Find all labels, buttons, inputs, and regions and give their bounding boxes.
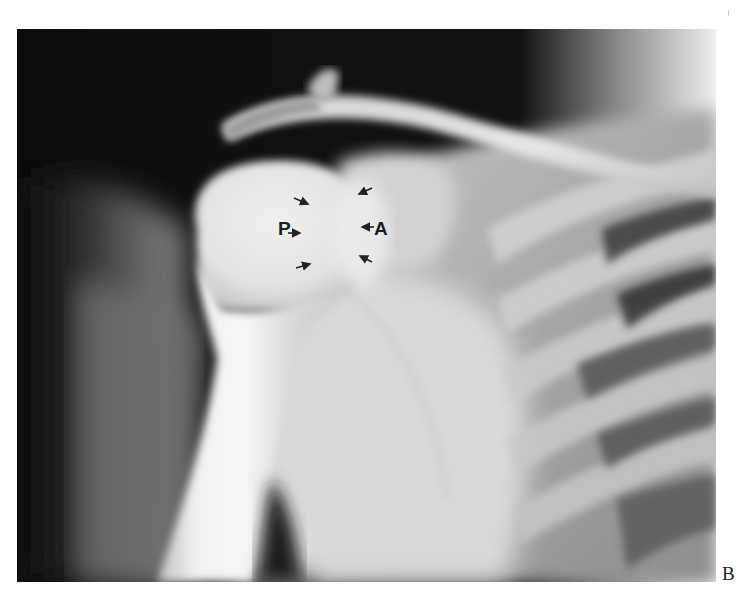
panel-label: B [722,564,735,583]
anterior-label: A [374,219,388,238]
radiograph-image [17,29,716,582]
page-corner-mark [728,10,729,16]
posterior-label: P [278,219,291,238]
figure: P A B [0,0,742,595]
shoulder-radiograph [17,29,716,582]
